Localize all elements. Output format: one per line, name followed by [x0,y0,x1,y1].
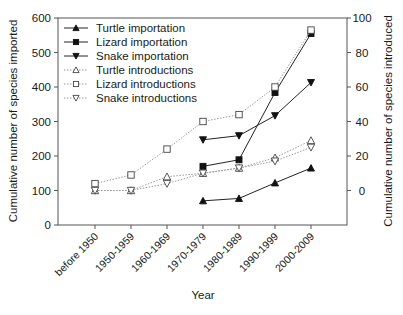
series-turtle-importation [200,165,315,204]
square-marker-icon [200,163,206,169]
legend-label: Turtle introductions [96,64,194,76]
left-tick-label: 300 [32,116,51,128]
right-tick-label: 20 [356,150,369,162]
square-marker-icon [236,157,242,163]
right-y-axis: 020406080100 [347,12,372,197]
left-tick-label: 500 [32,47,51,59]
series-line [203,168,311,201]
legend: Turtle importationLizard importationSnak… [64,22,197,104]
legend-label: Snake introductions [96,92,197,104]
square-marker-icon [236,111,242,117]
square-marker-icon [128,172,134,178]
right-tick-label: 0 [359,185,365,197]
square-marker-icon [164,146,170,152]
series-line [203,83,311,140]
legend-item: Lizard introductions [64,78,196,90]
legend-item: Snake importation [64,50,189,62]
legend-label: Turtle importation [96,22,185,34]
square-marker-icon [92,180,98,186]
legend-item: Snake introductions [64,92,197,104]
left-y-axis: 0100200300400500600 [32,12,58,231]
right-y-axis-label: Cumulative number of species introduced [382,15,394,227]
right-tick-label: 100 [352,12,371,24]
left-y-axis-label: Cumulative number of species imported [7,20,19,223]
legend-label: Lizard importation [96,36,187,48]
x-axis: before 19501950-19591960-19691970-197919… [52,225,316,278]
right-tick-label: 60 [356,81,369,93]
triangle-up-marker-icon [272,179,279,186]
legend-item: Turtle importation [64,22,185,34]
x-tick-label: 2000-2009 [272,230,316,274]
triangle-up-marker-icon [308,165,315,172]
left-tick-label: 100 [32,185,51,197]
series-snake-importation [200,80,315,144]
square-marker-icon [308,27,314,33]
triangle-up-marker-icon [307,137,314,144]
left-tick-label: 400 [32,81,51,93]
x-tick-label: before 1950 [52,230,100,278]
left-tick-label: 600 [32,12,51,24]
chart: 0100200300400500600 020406080100 before … [0,0,403,315]
legend-item: Turtle introductions [64,64,194,76]
legend-label: Snake importation [96,50,189,62]
legend-item: Lizard importation [64,36,187,48]
left-tick-label: 200 [32,150,51,162]
series-line [203,34,311,167]
triangle-down-marker-icon [307,144,314,151]
left-tick-label: 0 [45,219,51,231]
x-axis-label: Year [191,289,214,301]
right-tick-label: 40 [356,116,369,128]
triangle-down-marker-icon [200,137,207,144]
square-marker-icon [73,39,78,44]
legend-label: Lizard introductions [96,78,196,90]
triangle-down-marker-icon [272,113,279,120]
triangle-up-marker-icon [163,173,170,180]
right-tick-label: 80 [356,47,369,59]
series-lizard-importation [200,31,314,170]
square-marker-icon [73,81,78,86]
square-marker-icon [200,118,206,124]
square-marker-icon [272,84,278,90]
